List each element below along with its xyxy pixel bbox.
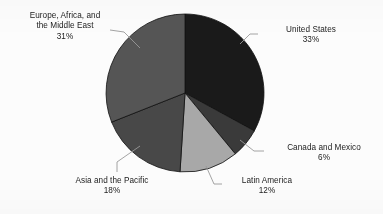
pie-chart-figure: Europe, Africa, and the Middle East 31% … <box>0 0 383 214</box>
pie-label-united-states-value: 33% <box>262 35 360 45</box>
pie-label-europe-value: 31% <box>6 32 124 42</box>
pie-label-latin-america: Latin America 12% <box>226 176 308 197</box>
pie-label-europe-line2: the Middle East <box>6 21 124 31</box>
pie-label-europe-africa-middle-east: Europe, Africa, and the Middle East 31% <box>6 11 124 42</box>
pie-label-united-states-name: United States <box>262 25 360 35</box>
pie-label-asia-and-the-pacific-name: Asia and the Pacific <box>56 176 168 186</box>
pie-label-europe-line1: Europe, Africa, and <box>6 11 124 21</box>
pie-label-asia-and-the-pacific-value: 18% <box>56 186 168 196</box>
pie-label-canada-and-mexico-name: Canada and Mexico <box>268 143 380 153</box>
pie-label-canada-and-mexico-value: 6% <box>268 153 380 163</box>
pie-label-latin-america-name: Latin America <box>226 176 308 186</box>
pie-label-canada-and-mexico: Canada and Mexico 6% <box>268 143 380 164</box>
pie-label-united-states: United States 33% <box>262 25 360 46</box>
pie-label-latin-america-value: 12% <box>226 186 308 196</box>
pie-label-asia-and-the-pacific: Asia and the Pacific 18% <box>56 176 168 197</box>
